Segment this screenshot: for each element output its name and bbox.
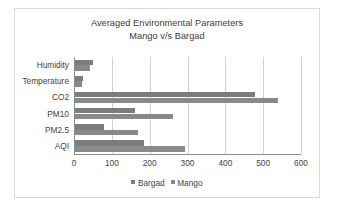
legend-swatch-icon xyxy=(171,180,175,184)
legend-item-bargad[interactable]: Bargad xyxy=(131,177,164,188)
legend-swatch-icon xyxy=(131,180,135,184)
bar-mango-co2 xyxy=(75,98,278,103)
bar-group xyxy=(75,73,301,89)
y-category-label: CO2 xyxy=(0,89,69,105)
x-tick-label: 100 xyxy=(92,158,132,169)
bar-group xyxy=(75,122,301,138)
x-tick-label: 200 xyxy=(130,158,170,169)
x-tick-label: 0 xyxy=(54,158,94,169)
bar-group xyxy=(75,106,301,122)
chart-frame: Averaged Environmental Parameters Mango … xyxy=(14,8,320,198)
gridline xyxy=(301,57,302,154)
chart-title-line-1: Averaged Environmental Parameters xyxy=(15,17,319,30)
plot-area: HumidityTemperatureCO2PM10PM2.5AQI 01002… xyxy=(74,57,301,154)
y-category-label: PM2.5 xyxy=(0,122,69,138)
x-tick-label: 500 xyxy=(243,158,283,169)
bar-mango-pm2-5 xyxy=(75,130,138,135)
y-category-label: AQI xyxy=(0,138,69,154)
chart-legend: BargadMango xyxy=(15,177,319,188)
y-category-label: Humidity xyxy=(0,57,69,73)
y-category-label: Temperature xyxy=(0,73,69,89)
bar-group xyxy=(75,57,301,73)
bar-bargad-temperature xyxy=(75,76,83,81)
x-tick-label: 600 xyxy=(281,158,321,169)
bar-mango-pm10 xyxy=(75,114,173,119)
bar-bargad-humidity xyxy=(75,60,93,65)
chart-title-line-2: Mango v/s Bargad xyxy=(15,30,319,43)
x-tick-label: 400 xyxy=(205,158,245,169)
y-category-label: PM10 xyxy=(0,106,69,122)
x-tick-label: 300 xyxy=(168,158,208,169)
bar-mango-aqi xyxy=(75,146,185,151)
legend-label: Bargad xyxy=(138,178,165,188)
bar-group xyxy=(75,89,301,105)
bar-mango-humidity xyxy=(75,65,90,70)
bar-group xyxy=(75,138,301,154)
bar-bargad-aqi xyxy=(75,140,144,145)
bar-bargad-co2 xyxy=(75,92,255,97)
legend-label: Mango xyxy=(177,178,202,188)
chart-title: Averaged Environmental Parameters Mango … xyxy=(15,17,319,42)
legend-item-mango[interactable]: Mango xyxy=(171,177,203,188)
x-axis-line xyxy=(74,154,301,155)
bar-bargad-pm2-5 xyxy=(75,124,104,129)
bar-mango-temperature xyxy=(75,81,82,86)
bar-bargad-pm10 xyxy=(75,108,135,113)
